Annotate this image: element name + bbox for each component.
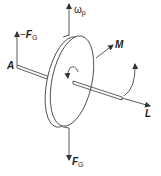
neg-fg-subscript: G xyxy=(32,34,37,41)
gyroscope-diagram xyxy=(0,0,161,176)
rotation-arrow-icon xyxy=(124,64,135,96)
omega-p-label: ωp xyxy=(74,5,86,16)
fg-label: FG xyxy=(72,157,84,168)
neg-fg-label: −FG xyxy=(20,30,37,41)
l-label: L xyxy=(145,109,151,119)
omega-subscript: p xyxy=(82,9,86,16)
fg-subscript: G xyxy=(78,161,83,168)
m-arrow xyxy=(96,45,113,58)
disk xyxy=(38,32,101,131)
axle-left xyxy=(17,65,50,80)
a-label: A xyxy=(7,61,14,71)
omega-symbol: ω xyxy=(74,4,82,15)
m-label: M xyxy=(115,40,123,50)
l-arrow xyxy=(122,98,150,106)
